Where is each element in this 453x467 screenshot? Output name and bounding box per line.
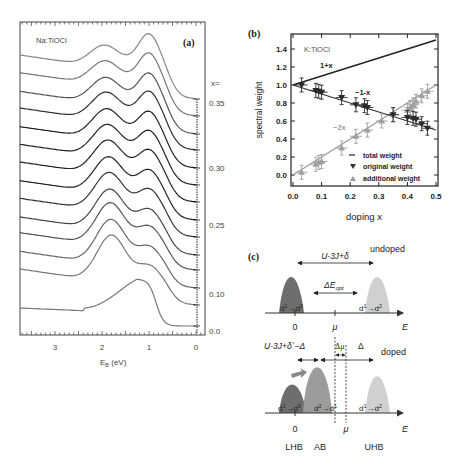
annotation-1-plus-x: 1+x bbox=[320, 61, 334, 70]
spectrum-curve bbox=[20, 109, 196, 168]
spectrum-curve bbox=[20, 124, 196, 184]
panel-a-x-header: x= bbox=[211, 79, 220, 88]
delta-mu-label: Δμ bbox=[335, 342, 344, 351]
x-tick-label: 0.5 bbox=[430, 192, 442, 201]
panel-b-label: (b) bbox=[248, 28, 260, 40]
panel-a-xlabel: EB (eV) bbox=[100, 358, 127, 368]
panel-a-xtick: 3 bbox=[53, 343, 58, 352]
up-triangle-icon bbox=[350, 176, 356, 181]
lhb-transition-label: d1→d0 bbox=[278, 403, 301, 413]
doped-diagram: U-3J+δ´−Δ Δμ Δ doped d1→d0 d2→d1 d1→d2 0… bbox=[264, 337, 409, 452]
legend-label: original weight bbox=[363, 163, 413, 171]
uhb-transition-label: d1→d2 bbox=[359, 403, 382, 413]
y-tick-label: 1.0 bbox=[276, 81, 288, 90]
annotation-2x: ~2x bbox=[333, 123, 347, 132]
band-name-uhb: UHB bbox=[364, 442, 383, 452]
y-tick-label: 0.2 bbox=[276, 153, 288, 162]
axis-label-e: E bbox=[402, 424, 409, 434]
y-tick-label: 1.2 bbox=[276, 63, 288, 72]
spectrum-curve bbox=[20, 279, 196, 326]
x-tick-label: 0.0 bbox=[287, 192, 299, 201]
panel-b-legend: total weight original weight additional … bbox=[349, 152, 421, 183]
undoped-diagram: undoped U-3J+δ ΔEopt d1→d0 d1→d2 0 μ E bbox=[265, 244, 409, 332]
figure: Na:TiOCl (a) x= 0.35 0.30 0.25 0.10 0.0 … bbox=[0, 0, 453, 467]
axis-label-zero: 0 bbox=[292, 322, 297, 332]
panel-a-x-label: 0.35 bbox=[209, 99, 225, 108]
panel-a: Na:TiOCl (a) x= 0.35 0.30 0.25 0.10 0.0 … bbox=[20, 22, 225, 368]
panel-a-x-label: 0.25 bbox=[209, 221, 225, 230]
panel-b-x-tick-labels: 0.00.10.20.30.40.5 bbox=[287, 192, 442, 201]
doped-gap-label: U-3J+δ´−Δ bbox=[264, 341, 305, 351]
spectrum-curve bbox=[20, 219, 196, 287]
x-tick-label: 0.2 bbox=[345, 192, 357, 201]
panel-c: (c) undoped U-3J+δ ΔEopt d1→d0 d1→d2 0 μ… bbox=[248, 244, 409, 452]
legend-label: total weight bbox=[363, 152, 403, 160]
panel-a-label: (a) bbox=[183, 37, 195, 49]
uhb-transition-label: d1→d2 bbox=[359, 303, 382, 313]
spectrum-curve bbox=[20, 91, 196, 150]
spectrum-curve bbox=[20, 189, 196, 255]
undoped-label: undoped bbox=[370, 244, 405, 254]
panel-c-label: (c) bbox=[248, 251, 259, 263]
lhb-transition-label: d1→d0 bbox=[280, 303, 303, 313]
panel-a-x-label: 0.30 bbox=[209, 164, 225, 173]
panel-a-top-ticks bbox=[22, 22, 201, 26]
band-name-ab: AB bbox=[314, 442, 326, 452]
down-triangle-icon bbox=[350, 164, 356, 169]
weight-transfer-arrow-icon bbox=[291, 368, 307, 378]
y-tick-label: 0.4 bbox=[276, 135, 288, 144]
band-name-lhb: LHB bbox=[285, 442, 303, 452]
x-tick-label: 0.3 bbox=[373, 192, 385, 201]
axis-label-e: E bbox=[402, 322, 409, 332]
panel-b-xlabel: doping x bbox=[346, 211, 382, 222]
spectrum-curve bbox=[20, 140, 196, 202]
legend-label: additional weight bbox=[363, 175, 421, 183]
panel-a-x-label: 0.0 bbox=[209, 327, 221, 336]
y-tick-label: 0.0 bbox=[276, 171, 288, 180]
ab-transition-label: d2→d1 bbox=[314, 403, 337, 413]
panel-a-title: Na:TiOCl bbox=[36, 36, 67, 45]
down-triangle-marker bbox=[424, 126, 431, 132]
x-tick-label: 0.1 bbox=[316, 192, 328, 201]
panel-a-spectra bbox=[20, 34, 200, 326]
x-tick-label: 0.4 bbox=[402, 192, 414, 201]
y-tick-label: 1.4 bbox=[276, 45, 288, 54]
optical-gap-label: ΔEopt bbox=[323, 280, 344, 291]
panel-a-x-label: 0.10 bbox=[209, 290, 225, 299]
axis-label-mu: μ bbox=[343, 424, 349, 434]
panel-a-xtick: 1 bbox=[147, 343, 152, 352]
axis-label-mu: μ bbox=[332, 322, 338, 332]
doped-label: doped bbox=[381, 347, 406, 357]
axis-label-zero: 0 bbox=[292, 424, 297, 434]
y-tick-label: 0.8 bbox=[276, 99, 288, 108]
annotation-1-minus-x: ~1-x bbox=[355, 88, 371, 97]
y-tick-label: 0.6 bbox=[276, 117, 288, 126]
delta-label: Δ bbox=[358, 341, 364, 351]
gap-label: U-3J+δ bbox=[321, 251, 349, 261]
spectrum-curve bbox=[20, 53, 196, 116]
panel-b-y-tick-labels: 0.00.20.40.60.81.01.21.4 bbox=[276, 45, 288, 180]
panel-b-title: K:TiOCl bbox=[304, 45, 330, 54]
panel-b: (b) 0.00.20.40.60.81.01.21.4 0.00.10.20.… bbox=[248, 28, 442, 222]
panel-a-xtick: 2 bbox=[100, 343, 105, 352]
panel-b-ylabel: spectral weight bbox=[254, 81, 264, 138]
panel-a-bottom-ticks bbox=[22, 331, 201, 335]
down-triangle-marker bbox=[338, 95, 345, 101]
down-triangle-marker bbox=[298, 83, 305, 89]
panel-a-frame bbox=[20, 22, 205, 335]
panel-a-xtick: 0 bbox=[194, 343, 199, 352]
